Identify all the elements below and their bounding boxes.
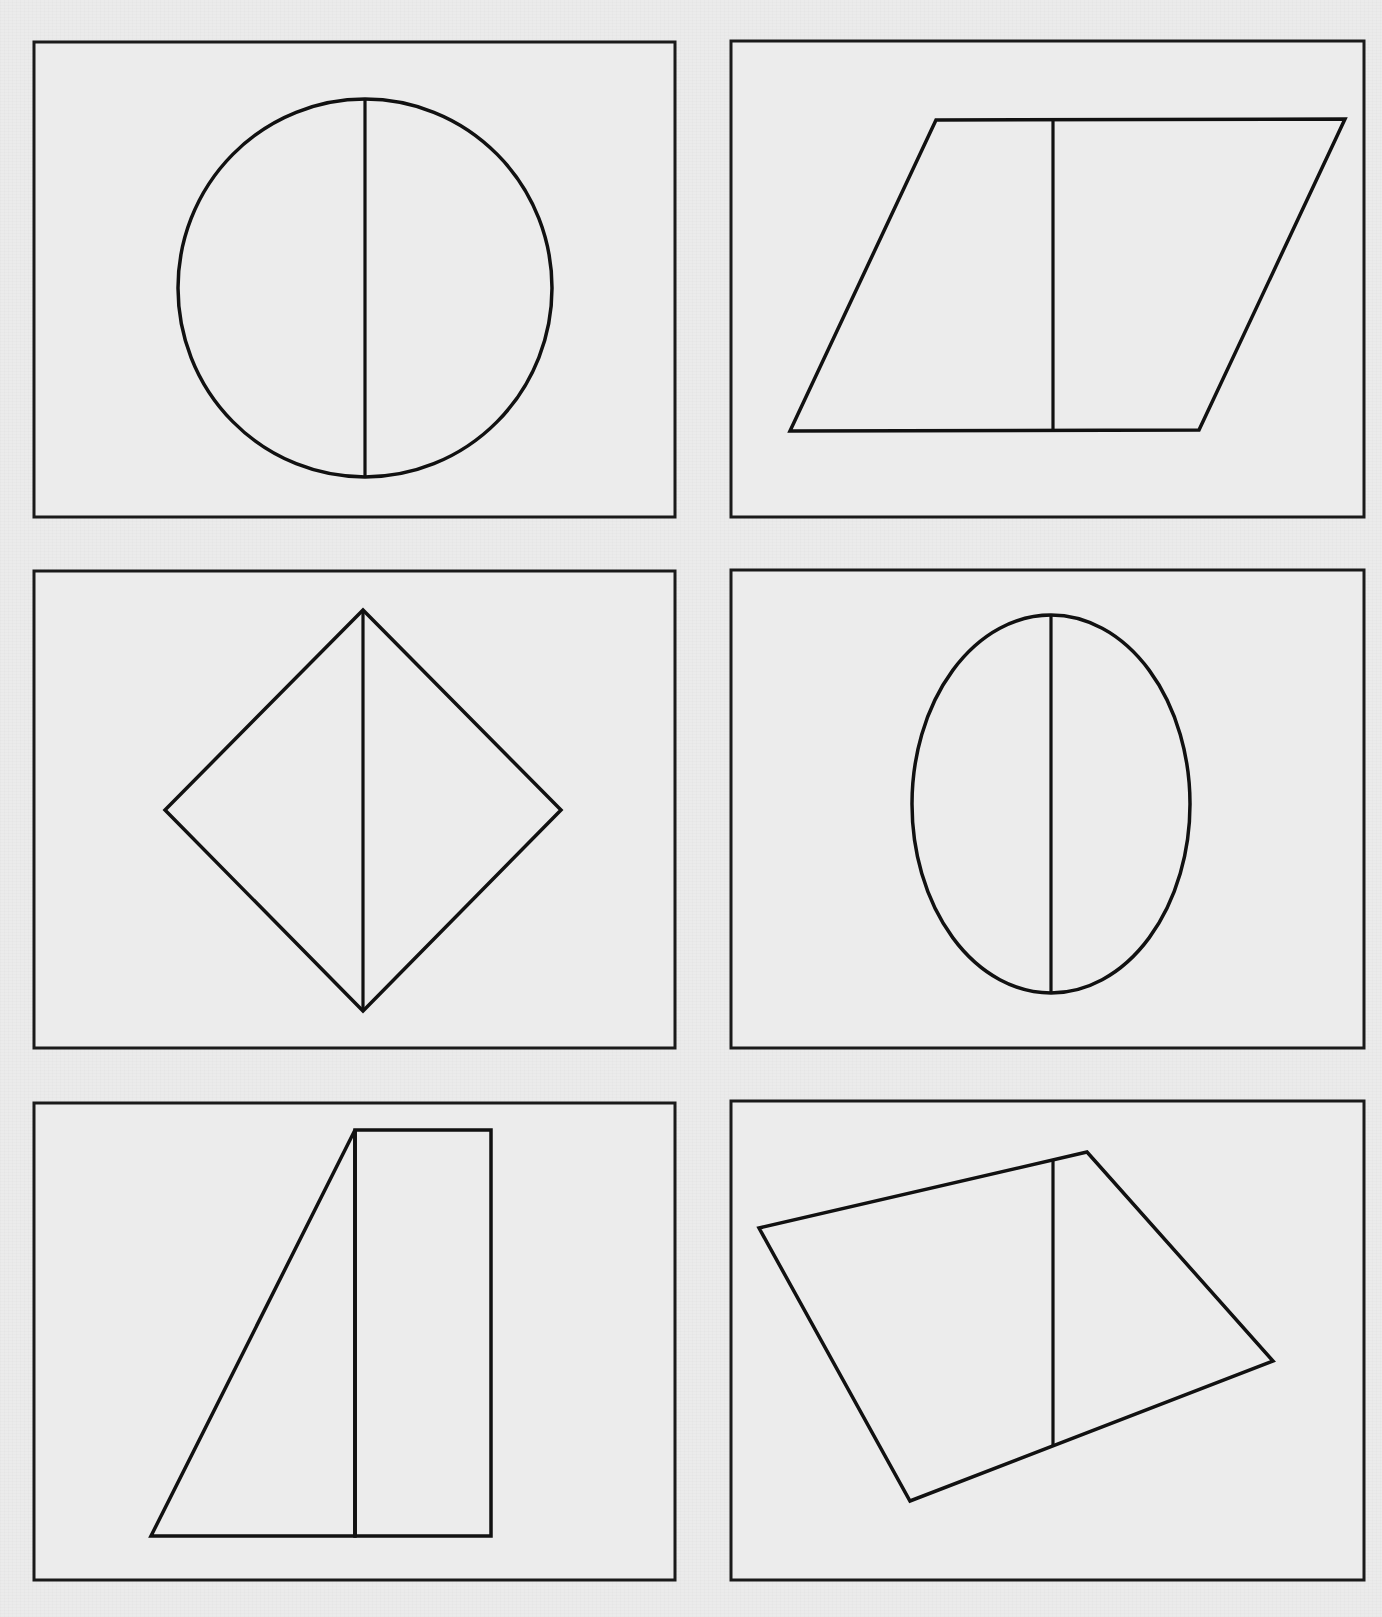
panel-frame — [731, 570, 1364, 1048]
panel-3 — [34, 571, 675, 1048]
panel-1 — [34, 42, 675, 517]
panel-frame — [731, 1101, 1364, 1580]
panel-frame — [34, 42, 675, 517]
panel-frame — [34, 571, 675, 1048]
panel-6 — [731, 1101, 1364, 1580]
panel-4 — [731, 570, 1364, 1048]
shapes-worksheet — [0, 0, 1382, 1617]
panel-2 — [731, 41, 1364, 517]
panel-grid — [34, 41, 1364, 1580]
panel-5 — [34, 1103, 675, 1580]
